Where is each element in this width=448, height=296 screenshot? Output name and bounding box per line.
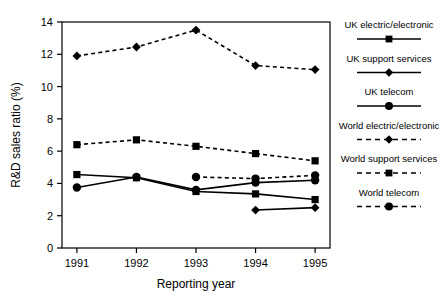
marker-square: [252, 150, 259, 157]
marker-circle: [132, 173, 140, 181]
y-axis-tick-label: 6: [47, 145, 53, 157]
marker-diamond: [251, 206, 260, 215]
x-axis-title: Reporting year: [157, 277, 236, 291]
series-line: [77, 30, 315, 70]
series-line: [256, 208, 316, 210]
rd-sales-ratio-line-chart: 0246810121419911992199319941995Reporting…: [0, 0, 448, 296]
marker-circle: [385, 203, 393, 211]
marker-circle: [385, 102, 393, 110]
y-axis-tick-label: 14: [41, 16, 53, 28]
marker-square: [312, 157, 319, 164]
marker-circle: [192, 173, 200, 181]
x-axis-tick-label: 1993: [184, 257, 208, 269]
marker-diamond: [132, 43, 141, 52]
x-axis-tick-label: 1995: [303, 257, 327, 269]
legend-label-5: World telecom: [359, 187, 420, 198]
marker-diamond: [385, 135, 393, 143]
series-1: [251, 203, 319, 214]
marker-circle: [251, 174, 259, 182]
x-axis-tick-label: 1994: [243, 257, 267, 269]
y-axis-tick-label: 4: [47, 177, 53, 189]
marker-circle: [311, 171, 319, 179]
series-4: [73, 136, 318, 164]
legend-label-1: UK support services: [346, 53, 431, 64]
series-3: [72, 26, 319, 74]
marker-square: [133, 136, 140, 143]
y-axis-tick-label: 8: [47, 113, 53, 125]
marker-diamond: [192, 26, 201, 35]
marker-diamond: [311, 65, 320, 74]
marker-diamond: [385, 68, 393, 76]
marker-square: [252, 190, 259, 197]
marker-diamond: [311, 203, 320, 212]
marker-square: [386, 36, 393, 43]
legend-label-0: UK electric/electronic: [344, 19, 433, 30]
legend-label-3: World electric/electronic: [339, 120, 440, 131]
marker-square: [73, 141, 80, 148]
y-axis-tick-label: 2: [47, 210, 53, 222]
chart-figure: 0246810121419911992199319941995Reporting…: [0, 0, 448, 296]
x-axis-tick-label: 1992: [124, 257, 148, 269]
marker-diamond: [72, 52, 81, 61]
marker-square: [73, 171, 80, 178]
y-axis-tick-label: 12: [41, 48, 53, 60]
x-axis-tick-label: 1991: [65, 257, 89, 269]
y-axis-title: R&D sales ratio (%): [9, 82, 23, 187]
marker-square: [312, 196, 319, 203]
y-axis-tick-label: 10: [41, 81, 53, 93]
legend-label-2: UK telecom: [364, 86, 413, 97]
marker-square: [192, 143, 199, 150]
y-axis-tick-label: 0: [47, 242, 53, 254]
legend-label-4: World support services: [341, 153, 438, 164]
marker-circle: [192, 186, 200, 194]
chart-legend: UK electric/electronicUK support service…: [339, 19, 440, 211]
plot-frame: [62, 22, 330, 248]
marker-diamond: [251, 61, 260, 70]
marker-circle: [73, 183, 81, 191]
marker-square: [386, 170, 393, 177]
